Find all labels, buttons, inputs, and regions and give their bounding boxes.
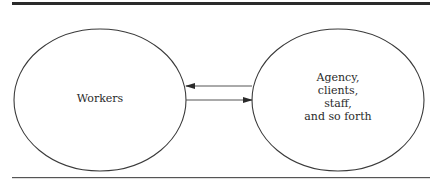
agency-label-line-2: clients, xyxy=(288,84,388,97)
agency-label-line-1: Agency, xyxy=(288,71,388,84)
agency-label-line-3: staff, xyxy=(288,97,388,110)
agency-label-line-4: and so forth xyxy=(288,110,388,123)
top-rule xyxy=(12,2,430,5)
workers-label: Workers xyxy=(60,92,140,105)
bottom-rule xyxy=(12,177,430,178)
agency-label: Agency, clients, staff, and so forth xyxy=(288,71,388,123)
